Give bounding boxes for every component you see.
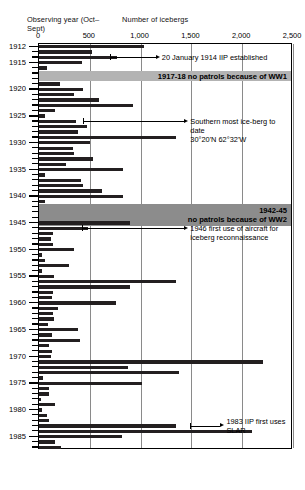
bar-1986 (39, 440, 55, 443)
bar-1929 (39, 136, 176, 139)
bar-1982 (39, 419, 49, 422)
y-tick-mark-1970 (29, 356, 38, 357)
bar-1963 (39, 317, 54, 320)
bar-1937 (39, 179, 81, 182)
bar-1913 (39, 50, 92, 53)
x-tick-2500: 2,500 (283, 31, 302, 40)
bar-1970 (39, 355, 51, 358)
bar-1983 (39, 424, 176, 427)
annotation-leader-3 (82, 228, 185, 229)
bar-1973 (39, 371, 179, 374)
bar-1977 (39, 392, 49, 395)
y-tick-1965: 1965 (0, 324, 26, 333)
bar-1971 (39, 360, 263, 363)
y-tick-1935: 1935 (0, 164, 26, 173)
y-tick-1920: 1920 (0, 84, 26, 93)
y-tick-mark-1925 (29, 115, 38, 116)
y-tick-1945: 1945 (0, 217, 26, 226)
bar-1969 (39, 350, 52, 353)
bar-1945 (39, 221, 130, 224)
bar-1958 (39, 291, 53, 294)
bar-1972 (39, 366, 128, 369)
annotation-text-1: 20 January 1914 IIP established (162, 53, 267, 62)
bar-1949 (39, 243, 53, 246)
bar-1922 (39, 98, 99, 101)
bar-1976 (39, 387, 49, 390)
x-tick-0: 0 (36, 31, 40, 40)
y-tick-mark-1945 (29, 222, 38, 223)
grid-line-2500 (293, 44, 294, 448)
grid-line-1000 (141, 44, 142, 448)
annotation-arrow-4 (220, 423, 224, 427)
bar-1933 (39, 157, 93, 160)
bar-1915 (39, 61, 82, 64)
bar-1957 (39, 285, 130, 288)
annotation-arrow-2 (184, 119, 188, 123)
bar-1946 (39, 227, 88, 230)
bar-1940 (39, 195, 123, 198)
bar-1923 (39, 104, 133, 107)
bar-1964 (39, 323, 48, 326)
x-axis-title: Number of icebergs (122, 16, 188, 25)
y-tick-mark-1950 (29, 249, 38, 250)
annotation-text-4: 1983 IIP first uses SLAR (226, 417, 291, 435)
y-tick-mark-1912 (29, 46, 38, 47)
y-tick-1925: 1925 (0, 111, 26, 120)
bar-1979 (39, 403, 55, 406)
y-tick-1915: 1915 (0, 57, 26, 66)
bar-1939 (39, 189, 102, 192)
x-tick-1500: 1,500 (181, 31, 200, 40)
bar-1978 (39, 398, 41, 401)
bar-1975 (39, 382, 142, 385)
war-band-label-1: 1917-18 no patrols because of WW1 (158, 72, 287, 81)
bar-1919 (39, 82, 60, 85)
y-tick-mark-1935 (29, 169, 38, 170)
y-tick-1940: 1940 (0, 191, 26, 200)
bar-1920 (39, 88, 83, 91)
bar-1960 (39, 301, 116, 304)
y-tick-mark-1955 (29, 275, 38, 276)
annotation-leader-2 (83, 121, 185, 122)
bar-1924 (39, 109, 55, 112)
bar-1950 (39, 248, 74, 251)
bar-1967 (39, 339, 80, 342)
bar-1953 (39, 264, 69, 267)
bar-1928 (39, 130, 78, 133)
iceberg-bar-chart: Observing year (Oct–Sept) Number of iceb… (0, 0, 305, 490)
y-tick-mark-1915 (29, 62, 38, 63)
bar-1931 (39, 147, 73, 150)
y-tick-mark-1960 (29, 302, 38, 303)
bar-1966 (39, 333, 52, 336)
bar-1959 (39, 296, 52, 299)
y-tick-mark-1940 (29, 195, 38, 196)
bar-1916 (39, 66, 47, 69)
plot-area: 1917-18 no patrols because of WW11942-45… (38, 43, 292, 449)
bar-1938 (39, 184, 83, 187)
bar-1987 (39, 446, 61, 449)
y-tick-1912: 1912 (0, 41, 26, 50)
bar-1980 (39, 408, 42, 411)
bar-1952 (39, 259, 45, 262)
y-tick-1955: 1955 (0, 271, 26, 280)
grid-line-1500 (191, 44, 192, 448)
y-tick-mark-1980 (29, 409, 38, 410)
bar-1932 (39, 152, 74, 155)
y-tick-1980: 1980 (0, 404, 26, 413)
y-tick-1960: 1960 (0, 298, 26, 307)
bar-1968 (39, 344, 49, 347)
bar-1926 (39, 120, 76, 123)
y-tick-1975: 1975 (0, 378, 26, 387)
y-tick-mark-1920 (29, 88, 38, 89)
y-tick-mark-1965 (29, 329, 38, 330)
y-tick-mark-1930 (29, 142, 38, 143)
annotation-leader-1 (110, 57, 156, 58)
bar-1912 (39, 45, 144, 48)
y-tick-1985: 1985 (0, 431, 26, 440)
y-tick-1970: 1970 (0, 351, 26, 360)
bar-1925 (39, 114, 45, 117)
x-tick-1000: 1,000 (130, 31, 149, 40)
annotation-arrow-3 (184, 226, 188, 230)
bar-1974 (39, 376, 43, 379)
annotation-text-3: 1946 first use of aircraft for iceberg r… (190, 224, 278, 242)
x-tick-500: 500 (83, 31, 95, 40)
